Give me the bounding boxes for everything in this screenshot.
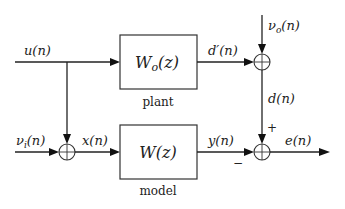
sum-error xyxy=(254,144,270,160)
arrow-e xyxy=(319,148,330,156)
model-transfer-function: W(z) xyxy=(139,143,176,162)
label-nu-i: νi(n) xyxy=(16,133,45,150)
plus-sign: + xyxy=(267,121,277,135)
label-e: e(n) xyxy=(285,133,311,148)
arrow-nu-i xyxy=(49,148,59,156)
sum-output-noise xyxy=(254,54,270,70)
arrow-d xyxy=(258,134,266,144)
label-x: x(n) xyxy=(82,133,108,148)
label-nu-o: νo(n) xyxy=(268,18,300,35)
model-caption: model xyxy=(139,184,176,198)
label-d: d(n) xyxy=(268,91,295,106)
plant-caption: plant xyxy=(142,95,173,109)
arrow-nu-o xyxy=(258,44,266,54)
arrow-into-plant xyxy=(110,58,120,66)
label-d-prime: d′(n) xyxy=(208,43,238,58)
label-u: u(n) xyxy=(24,43,51,58)
arrow-y xyxy=(244,148,254,156)
arrow-into-sum-input xyxy=(63,134,71,144)
block-diagram: u(n) νi(n) x(n) Wo(z) plant W(z) model d… xyxy=(0,0,345,209)
arrow-into-model xyxy=(110,148,120,156)
sum-input xyxy=(59,144,75,160)
arrow-d-prime xyxy=(244,58,254,66)
label-y: y(n) xyxy=(207,133,234,148)
minus-sign: − xyxy=(233,156,243,170)
